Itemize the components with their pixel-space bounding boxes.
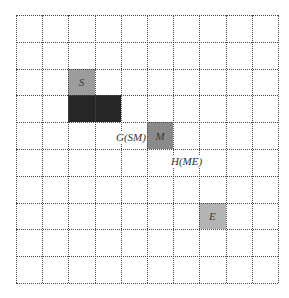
h-me-annotation: H(ME) xyxy=(170,155,203,167)
grid-line xyxy=(16,149,278,150)
grid-line xyxy=(16,69,278,70)
grid-line xyxy=(16,42,278,43)
grid-line xyxy=(16,256,278,257)
grid-line xyxy=(16,95,278,96)
g-sm-annotation: G(SM) xyxy=(115,131,147,143)
grid-line xyxy=(278,15,279,283)
grid-line xyxy=(16,15,278,16)
mid-label: M xyxy=(147,122,173,149)
grid-map: S M E G(SM) H(ME) xyxy=(16,15,278,283)
grid-line xyxy=(16,229,278,230)
grid-line xyxy=(16,203,278,204)
grid-line xyxy=(16,176,278,177)
end-label: E xyxy=(199,203,225,230)
grid-line xyxy=(16,283,278,284)
start-label: S xyxy=(68,69,94,96)
